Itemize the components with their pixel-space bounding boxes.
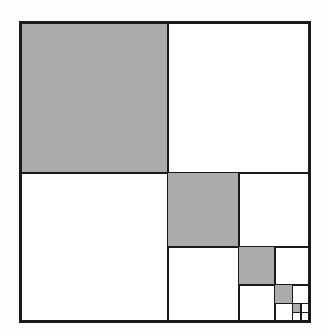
quadrant-layers — [21, 23, 310, 322]
figure-root — [0, 0, 322, 336]
recursive-quadrant-diagram — [0, 0, 322, 336]
quadrant-level-1-shaded-quadrant — [21, 23, 169, 174]
quadrant-level-3-shaded-quadrant — [239, 247, 275, 285]
quadrant-level-5-shaded-quadrant — [293, 304, 302, 313]
quadrant-level-2-shaded-quadrant — [168, 173, 239, 247]
quadrant-level-4-shaded-quadrant — [275, 285, 293, 304]
